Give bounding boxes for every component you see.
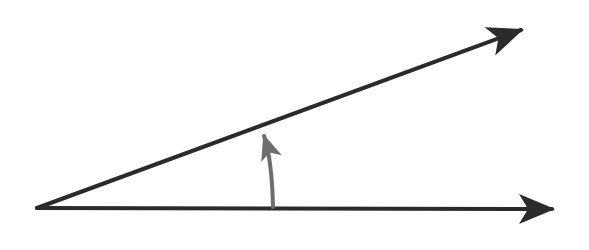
terminal-side-ray [37, 30, 521, 208]
angle-diagram [0, 0, 589, 250]
initial-side-ray [37, 208, 552, 209]
rotation-arc-arrow [264, 136, 273, 207]
